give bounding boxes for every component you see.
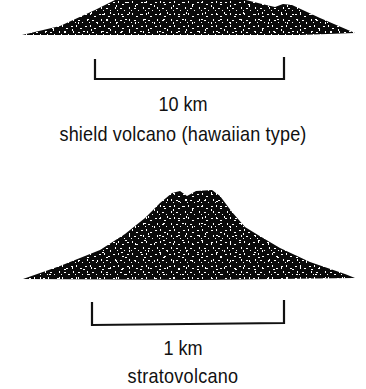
strato-caption: stratovolcano	[26, 364, 341, 388]
shield-volcano-profile	[22, 0, 355, 35]
shield-scale-bar	[95, 57, 284, 79]
strato-scale-bar	[92, 300, 284, 325]
shield-caption: shield volcano (hawaiian type)	[26, 122, 341, 146]
diagram-canvas	[0, 0, 366, 389]
strato-scale-label: 1 km	[26, 336, 341, 360]
stratovolcano-profile	[23, 190, 355, 280]
shield-scale-label: 10 km	[26, 92, 341, 116]
